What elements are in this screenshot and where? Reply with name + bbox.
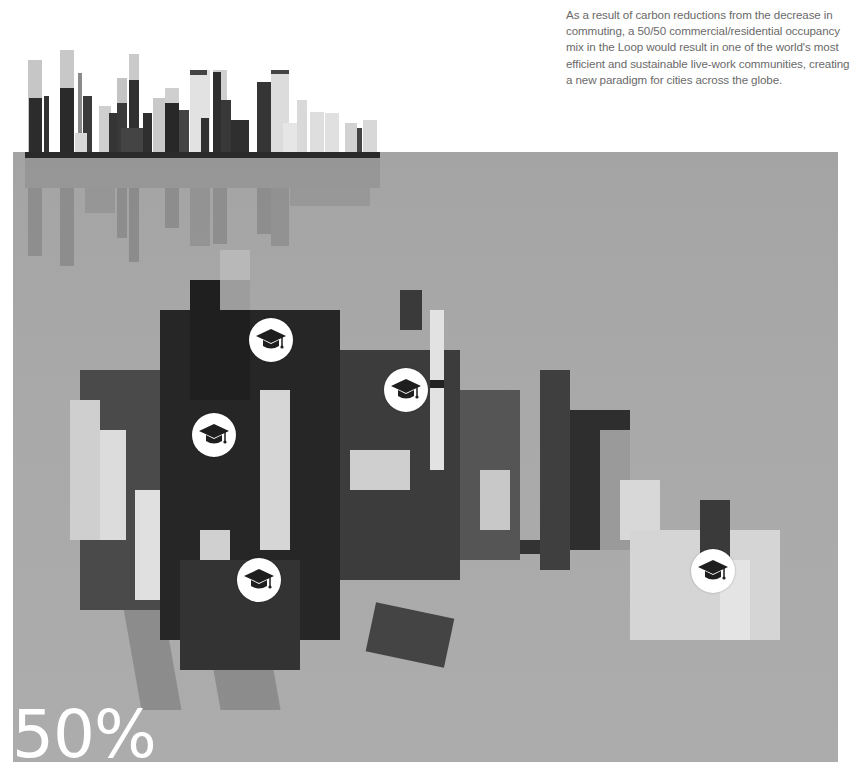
graduation-cap-icon <box>390 377 422 403</box>
education-marker[interactable] <box>192 413 236 457</box>
graduation-cap-icon <box>198 422 230 448</box>
education-marker[interactable] <box>237 558 281 602</box>
education-marker[interactable] <box>384 368 428 412</box>
education-marker[interactable] <box>249 318 293 362</box>
city-model <box>60 250 800 710</box>
occupancy-percentage: 50% <box>12 700 156 770</box>
graduation-cap-icon <box>243 567 275 593</box>
education-marker[interactable] <box>691 549 735 593</box>
caption-text: As a result of carbon reductions from th… <box>566 7 856 88</box>
skyline-elevation <box>25 48 380 158</box>
bottom-margin <box>0 762 860 775</box>
graduation-cap-icon <box>697 558 729 584</box>
graduation-cap-icon <box>255 327 287 353</box>
